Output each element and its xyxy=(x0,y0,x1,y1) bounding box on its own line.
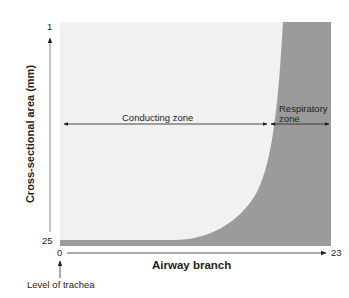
x-axis-label: Airway branch xyxy=(152,259,231,271)
x-tick-left: 0 xyxy=(57,247,62,258)
y-tick-bottom: 25 xyxy=(42,235,53,246)
chart-svg xyxy=(0,0,349,298)
x-tick-right: 23 xyxy=(331,247,342,258)
y-tick-top: 1 xyxy=(47,21,52,32)
airway-cross-section-chart: 1 25 0 23 Airway branch Cross-sectional … xyxy=(0,0,349,298)
conducting-zone-label: Conducting zone xyxy=(122,112,193,123)
y-axis-label: Cross-sectional area (mm) xyxy=(24,64,36,204)
respiratory-zone-label-2: zone xyxy=(279,113,300,124)
trachea-label: Level of trachea xyxy=(27,279,95,290)
